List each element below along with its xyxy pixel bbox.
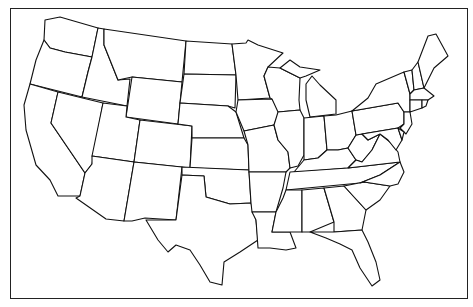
state-wyoming xyxy=(126,77,182,124)
state-florida xyxy=(310,230,380,286)
state-massachusetts xyxy=(410,88,434,100)
state-south-dakota xyxy=(180,74,236,108)
state-maine xyxy=(418,34,448,88)
state-montana xyxy=(104,29,186,82)
state-rhode-island xyxy=(422,100,428,108)
us-outline-map xyxy=(0,0,473,307)
state-connecticut xyxy=(410,100,422,112)
state-north-dakota xyxy=(184,41,236,75)
state-kansas xyxy=(190,138,249,170)
state-michigan-lower xyxy=(306,76,336,117)
state-new-york xyxy=(352,72,410,112)
state-new-mexico xyxy=(124,162,182,221)
state-colorado xyxy=(134,120,192,168)
